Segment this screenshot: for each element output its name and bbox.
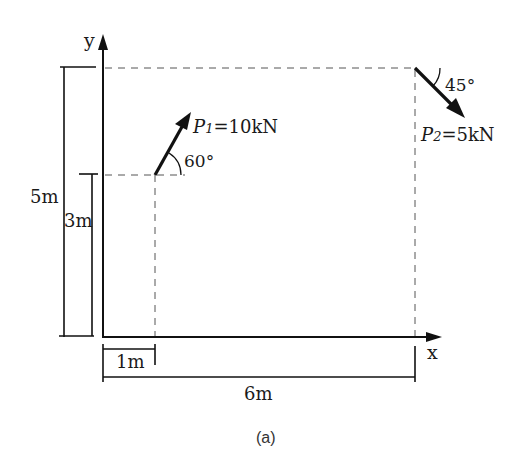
force-p1-shaft [155, 125, 183, 175]
angle-arc-45 [433, 68, 440, 86]
force-p2-value: =5kN [441, 124, 494, 145]
y-axis-label: y [83, 29, 95, 51]
y-axis-arrowhead [98, 34, 108, 50]
figure-caption: (a) [256, 429, 276, 446]
dim-6m-label: 6m [244, 383, 273, 404]
angle-label-45: 45° [445, 75, 475, 95]
force-diagram: y x 5m 3m 1m 6m P1=10kN 60° 45° [0, 0, 526, 467]
force-p2-subscript: 2 [432, 129, 441, 144]
force-p2: 45° P2=5kN [415, 68, 495, 145]
angle-arc-60 [169, 153, 181, 175]
angle-label-60: 60° [184, 151, 214, 171]
axes [98, 34, 442, 342]
dim-1m-label: 1m [116, 351, 145, 372]
force-p1-subscript: 1 [205, 121, 213, 136]
force-p1-value: =10kN [213, 116, 278, 137]
dim-3m-label: 3m [64, 210, 93, 231]
force-p1: P1=10kN 60° [155, 112, 278, 175]
force-p1-label: P1=10kN [192, 116, 278, 137]
force-p2-label: P2=5kN [420, 124, 495, 145]
force-p1-symbol: P [192, 116, 206, 137]
force-p1-arrowhead [175, 112, 191, 130]
dim-5m-label: 5m [30, 186, 59, 207]
force-p2-symbol: P [420, 124, 434, 145]
dimension-lines [59, 67, 415, 382]
x-axis-label: x [427, 341, 438, 363]
guide-lines [105, 68, 415, 336]
